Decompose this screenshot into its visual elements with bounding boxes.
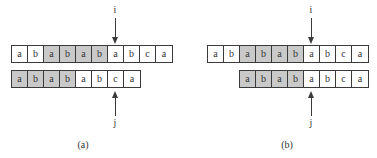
text-cell-matched: b: [256, 46, 272, 62]
text-cell: b: [224, 46, 240, 62]
text-cell-matched: b: [288, 46, 304, 62]
text-cell: a: [352, 46, 368, 62]
text-cell-matched: a: [272, 46, 288, 62]
pattern-cell: b: [320, 71, 336, 87]
pattern-cell: c: [336, 71, 352, 87]
pattern-cell-matched: b: [288, 71, 304, 87]
text-cell: c: [336, 46, 352, 62]
panel-b: i a b a b a b a b c a a b a b a b c a j …: [0, 0, 377, 158]
pattern-cell: a: [304, 71, 320, 87]
text-cell-matched: a: [240, 46, 256, 62]
text-cell: a: [208, 46, 224, 62]
pattern-string-row: a b a b a b c a: [239, 70, 369, 88]
pointer-j-line: [311, 97, 312, 116]
pointer-i-line: [311, 18, 312, 38]
pattern-cell: a: [352, 71, 368, 87]
text-cell: b: [320, 46, 336, 62]
text-string-row: a b a b a b a b c a: [207, 45, 369, 63]
arrow-down-icon: [308, 37, 314, 44]
pattern-cell-matched: b: [256, 71, 272, 87]
pattern-cell-matched: a: [240, 71, 256, 87]
pattern-cell-matched: a: [272, 71, 288, 87]
text-cell: a: [304, 46, 320, 62]
pointer-j-label: j: [310, 118, 313, 128]
pointer-i-label: i: [310, 5, 313, 15]
panel-caption: (b): [281, 140, 293, 150]
